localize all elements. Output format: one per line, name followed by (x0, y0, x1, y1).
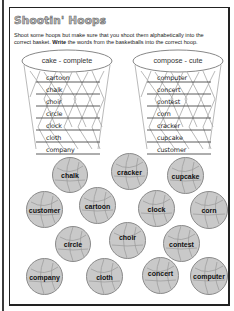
basketball-seams-icon (110, 223, 145, 258)
hoop-range-label: compose - cute (131, 56, 225, 65)
basketball-word: choir (110, 234, 145, 241)
basketball-word: cupcake (168, 172, 203, 179)
hoop-word-line[interactable]: choir (46, 98, 61, 106)
instructions: Shoot some hoops but make sure that you … (14, 32, 234, 47)
basketball-word: customer (27, 206, 62, 213)
hoop-word-line[interactable]: corn (157, 110, 171, 118)
basketball-word: circle (56, 241, 90, 248)
hoop-word-line[interactable]: circle (46, 110, 62, 118)
instructions-text: the words from the basketballs into the … (66, 39, 198, 45)
instructions-line-1: Shoot some hoops but make sure that you … (14, 32, 234, 39)
hoop-word-line[interactable]: concert (157, 86, 180, 94)
hoop-word-line[interactable]: cloth (46, 134, 61, 142)
basketball-word: cloth (87, 273, 122, 280)
basketball-cloth[interactable]: cloth (86, 258, 123, 295)
hoop-word-line[interactable]: company (46, 146, 75, 154)
hoop-range-label: cake - complete (20, 56, 114, 65)
basketball-word: computer (191, 273, 227, 280)
basketball-word: company (27, 273, 62, 280)
basketball-clock[interactable]: clock (138, 190, 175, 227)
basketball-choir[interactable]: choir (109, 222, 146, 259)
basketball-contest[interactable]: contest (163, 225, 200, 262)
basketball-word: chalk (53, 172, 87, 179)
basketball-circle[interactable]: circle (55, 226, 91, 262)
basketball-cupcake[interactable]: cupcake (167, 157, 204, 194)
instructions-text: correct basket. (14, 39, 52, 45)
basketball-cartoon[interactable]: cartoon (79, 187, 116, 224)
hoop-word-line[interactable]: cracker (157, 122, 180, 130)
basketball-word: concert (143, 269, 178, 276)
hoop-word-line[interactable]: cartoon (46, 74, 70, 82)
hoop-word-line[interactable]: cupcake (157, 134, 183, 142)
basketball-customer[interactable]: customer (26, 191, 63, 228)
hoop-word-line[interactable]: customer (157, 146, 186, 154)
basketball-cracker[interactable]: cracker (111, 153, 148, 190)
worksheet-title: Shootin' Hoops (14, 14, 106, 26)
basketball-corn[interactable]: corn (190, 191, 228, 229)
hoop-cake-complete: cake - complete cartoon chalk choir circ… (20, 49, 114, 159)
basketball-computer[interactable]: computer (190, 257, 228, 295)
basketball-concert[interactable]: concert (142, 257, 179, 294)
hoop-word-line[interactable]: contest (157, 98, 180, 106)
basketball-word: cartoon (80, 202, 115, 209)
page-edge-divider (2, 0, 4, 311)
hoop-word-line[interactable]: computer (157, 74, 187, 82)
instructions-bold-write: Write (52, 39, 66, 45)
basketball-word: clock (139, 205, 174, 212)
hoop-net-icon (20, 49, 114, 159)
basketball-word: cracker (112, 168, 147, 175)
hoop-compose-cute: compose - cute computer concert contest … (131, 49, 225, 159)
basketball-company[interactable]: company (26, 258, 63, 295)
hoop-word-line[interactable]: chalk (46, 86, 62, 94)
basketball-word: contest (164, 240, 199, 247)
hoop-word-line[interactable]: clock (46, 122, 62, 130)
basketball-word: corn (191, 207, 227, 214)
instructions-line-2: correct basket. Write the words from the… (14, 39, 234, 46)
